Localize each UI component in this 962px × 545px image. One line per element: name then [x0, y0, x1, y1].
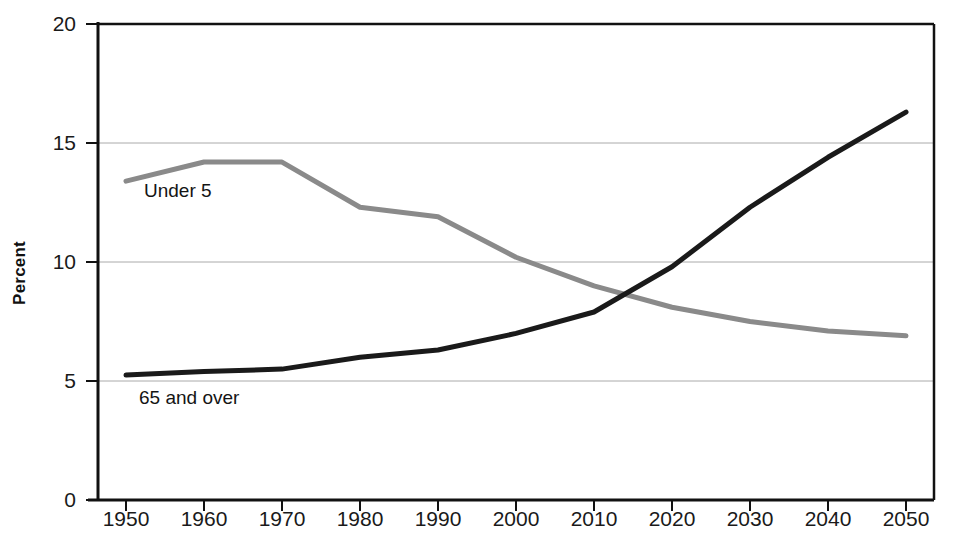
y-axis-tick-label: 0: [12, 489, 76, 510]
x-axis-tick-label: 2050: [861, 508, 951, 529]
y-axis-tick-label: 15: [12, 132, 76, 153]
x-axis-tick-label: 1960: [159, 508, 249, 529]
x-axis-tick-label: 1970: [237, 508, 327, 529]
x-axis-tick-label: 2020: [627, 508, 717, 529]
x-axis-tick-label: 2010: [549, 508, 639, 529]
series-line-over-65: [126, 112, 906, 375]
series-line-under-5: [126, 162, 906, 336]
data-series: [126, 112, 906, 375]
chart-container: Percent 05101520 19501960197019801990200…: [0, 0, 962, 545]
x-axis-tick-label: 1980: [315, 508, 405, 529]
series-annotation-under-5: Under 5: [144, 181, 212, 200]
x-axis-tick-label: 2030: [705, 508, 795, 529]
x-axis-tick-label: 2040: [783, 508, 873, 529]
y-axis-ticks: [86, 24, 98, 500]
x-axis-tick-label: 2000: [471, 508, 561, 529]
x-axis-tick-label: 1990: [393, 508, 483, 529]
plot-area: [0, 0, 962, 545]
y-axis-tick-label: 5: [12, 370, 76, 391]
axis-lines: [88, 22, 934, 500]
y-axis-tick-label: 10: [12, 251, 76, 272]
series-annotation-over-65: 65 and over: [139, 388, 239, 407]
x-axis-tick-label: 1950: [81, 508, 171, 529]
y-axis-tick-label: 20: [12, 13, 76, 34]
